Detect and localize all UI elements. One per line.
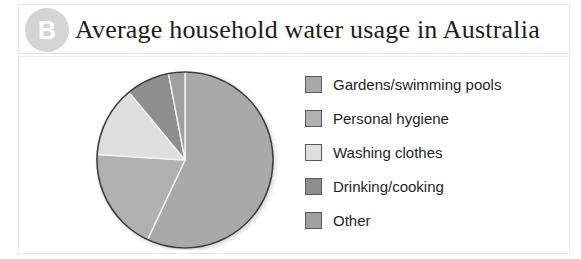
legend-item-label: Gardens/swimming pools [333,76,501,93]
chart-panel: Gardens/swimming poolsPersonal hygieneWa… [18,56,570,254]
legend-swatch-icon [305,110,322,127]
legend-item: Drinking/cooking [305,169,560,203]
legend-swatch-icon [305,212,322,229]
legend-item-label: Other [333,212,371,229]
legend-item-label: Washing clothes [333,144,443,161]
figure-header: B Average household water usage in Austr… [18,4,570,54]
pie-chart [74,65,304,250]
legend-item: Personal hygiene [305,101,560,135]
legend-swatch-icon [305,178,322,195]
legend-item: Washing clothes [305,135,560,169]
legend-item: Other [305,203,560,237]
legend-swatch-icon [305,76,322,93]
legend-item-label: Personal hygiene [333,110,449,127]
pie-slice-group [97,72,273,248]
chart-legend: Gardens/swimming poolsPersonal hygieneWa… [305,67,560,237]
figure-panel: B Average household water usage in Austr… [0,0,581,259]
legend-item-label: Drinking/cooking [333,178,444,195]
figure-label-badge: B [25,8,69,52]
pie-chart-svg [74,65,304,250]
page-title: Average household water usage in Austral… [75,5,540,55]
legend-item: Gardens/swimming pools [305,67,560,101]
legend-swatch-icon [305,144,322,161]
